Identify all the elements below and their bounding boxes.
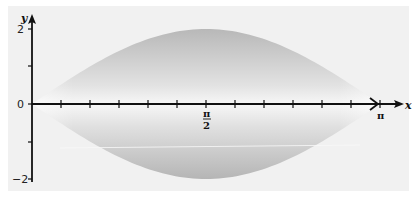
chart: x y 2 0 −2 π 2 π xyxy=(0,0,415,199)
x-tick-label-pi: π xyxy=(377,110,384,121)
y-tick-label-neg2: −2 xyxy=(12,173,28,186)
x-tick-label-pi-half-num: π xyxy=(203,108,210,119)
y-tick-label-2: 2 xyxy=(17,23,24,36)
x-tick-label-pi-half-den: 2 xyxy=(203,120,210,131)
y-tick-label-0: 0 xyxy=(17,98,24,111)
x-axis-label: x xyxy=(404,99,412,112)
